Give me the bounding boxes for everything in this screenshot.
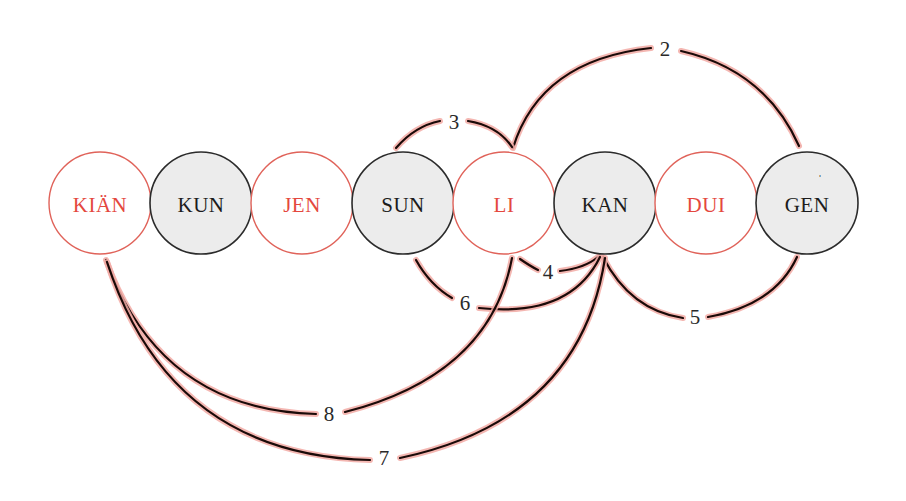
node-jen: JEN [251,152,353,254]
node-label-sun: SUN [381,193,425,217]
arc-2-li-gen [513,48,799,148]
gen-accent-mark: ˈ [818,173,822,187]
arc-8-kian-li [106,258,512,414]
arc-label-7: 7 [379,446,390,470]
nodes: KIÄN KUN JEN SUN LI KAN DUI GEN ˈ [49,152,858,254]
node-label-kan: KAN [582,193,629,217]
arc-label-4: 4 [543,260,554,284]
node-kian: KIÄN [49,152,151,254]
node-label-kian: KIÄN [73,193,128,217]
node-gen: GEN ˈ [756,152,858,254]
node-sun: SUN [352,152,454,254]
arc-label-5: 5 [690,305,701,329]
arc-label-6: 6 [460,291,471,315]
node-li: LI [453,152,555,254]
node-kun: KUN [150,152,252,254]
arc-label-2: 2 [660,37,671,61]
arc-label-8: 8 [324,402,335,426]
node-label-kun: KUN [178,193,225,217]
node-label-li: LI [494,193,515,217]
trigram-arc-diagram: KIÄN KUN JEN SUN LI KAN DUI GEN ˈ [0,0,906,501]
node-kan: KAN [554,152,656,254]
arc-7-kian-kan [107,258,605,460]
arc-label-3: 3 [449,110,460,134]
node-label-jen: JEN [283,193,321,217]
node-label-dui: DUI [687,193,726,217]
arc-4-li-kan [520,257,598,271]
node-dui: DUI [655,152,757,254]
node-label-gen: GEN [785,193,830,217]
